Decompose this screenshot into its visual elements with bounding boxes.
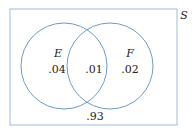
outside-value: .93 (86, 111, 104, 122)
set-e-only-value: .04 (48, 64, 66, 75)
set-f-circle (67, 23, 153, 109)
set-f-label: F (126, 48, 134, 59)
universe-label: S (180, 10, 188, 21)
intersection-value: .01 (85, 64, 103, 75)
set-f-only-value: .02 (121, 64, 139, 75)
set-e-label: E (54, 48, 62, 59)
